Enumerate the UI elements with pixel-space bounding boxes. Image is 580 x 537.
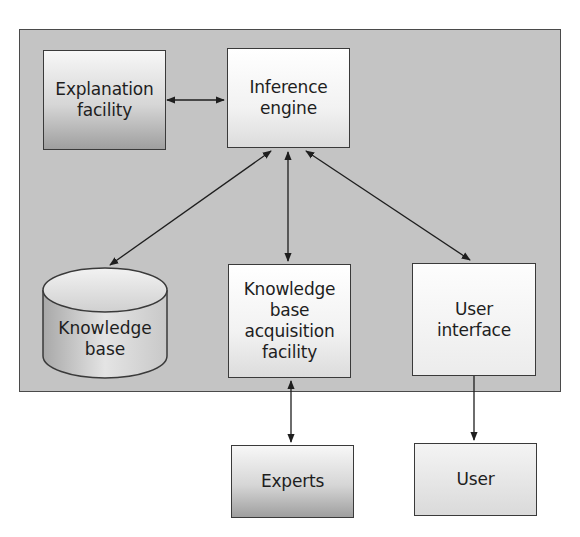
arrow-inference-knowledge-base bbox=[110, 151, 271, 265]
experts-node: Experts bbox=[231, 445, 354, 518]
explanation-facility-node: Explanation facility bbox=[43, 50, 166, 150]
arrow-inference-user-interface bbox=[306, 151, 470, 260]
inference-engine-label: Inference engine bbox=[249, 77, 327, 119]
kb-acquisition-facility-node: Knowledge base acquisition facility bbox=[228, 264, 351, 378]
knowledge-base-label: Knowledge base bbox=[43, 318, 167, 360]
explanation-facility-label: Explanation facility bbox=[55, 79, 153, 121]
kb-acquisition-facility-label: Knowledge base acquisition facility bbox=[244, 279, 336, 363]
user-label: User bbox=[457, 469, 495, 490]
experts-label: Experts bbox=[261, 471, 324, 492]
user-node: User bbox=[414, 443, 537, 516]
inference-engine-node: Inference engine bbox=[227, 48, 350, 148]
user-interface-node: User interface bbox=[412, 263, 536, 376]
user-interface-label: User interface bbox=[437, 299, 511, 341]
